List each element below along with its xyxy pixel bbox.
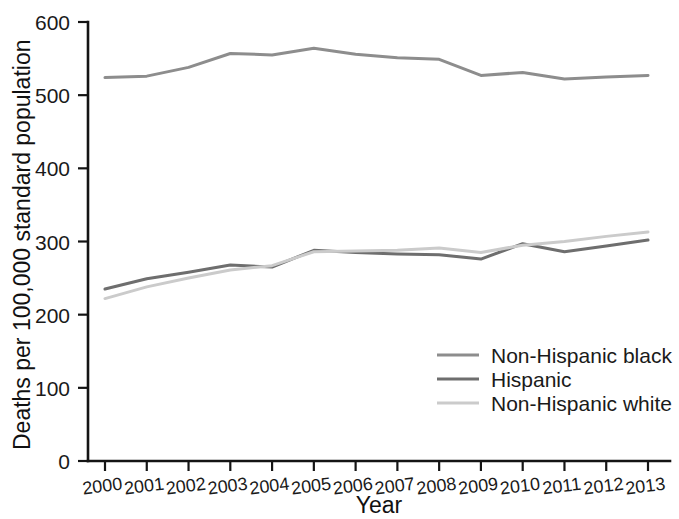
- legend-label-0: Non-Hispanic black: [491, 344, 672, 367]
- series-line-0: [105, 48, 648, 79]
- x-axis-title: Year: [356, 492, 403, 518]
- x-tick-label: 2013: [624, 474, 666, 499]
- x-tick-label: 2002: [165, 474, 207, 499]
- legend-label-2: Non-Hispanic white: [491, 392, 672, 415]
- y-tick-label: 600: [35, 11, 70, 34]
- line-chart: Deaths per 100,000 standard population 0…: [0, 0, 679, 519]
- y-tick-label: 300: [35, 231, 70, 254]
- y-tick-label: 200: [35, 304, 70, 327]
- chart-page: Deaths per 100,000 standard population 0…: [0, 0, 679, 519]
- x-tick-label: 2003: [206, 474, 248, 499]
- x-tick-label: 2004: [248, 474, 290, 499]
- x-tick-label: 2000: [81, 474, 123, 499]
- legend: Non-Hispanic blackHispanicNon-Hispanic w…: [437, 344, 672, 415]
- x-tick-label: 2005: [290, 474, 332, 499]
- x-tick-label: 2009: [457, 474, 499, 499]
- y-tick-label: 400: [35, 157, 70, 180]
- x-tick-label: 2012: [582, 474, 624, 499]
- series-line-1: [105, 240, 648, 289]
- y-tick-label: 100: [35, 377, 70, 400]
- x-tick-label: 2010: [499, 474, 541, 499]
- legend-label-1: Hispanic: [491, 368, 572, 391]
- y-tick-label: 0: [58, 450, 70, 473]
- y-tick-group: 0100200300400500600: [35, 11, 88, 473]
- x-tick-label: 2008: [415, 474, 457, 499]
- series-group: [105, 48, 648, 298]
- x-tick-label: 2011: [541, 474, 582, 499]
- y-tick-label: 500: [35, 84, 70, 107]
- x-tick-label: 2001: [123, 474, 165, 499]
- series-line-2: [105, 232, 648, 299]
- y-axis-title: Deaths per 100,000 standard population: [9, 40, 35, 450]
